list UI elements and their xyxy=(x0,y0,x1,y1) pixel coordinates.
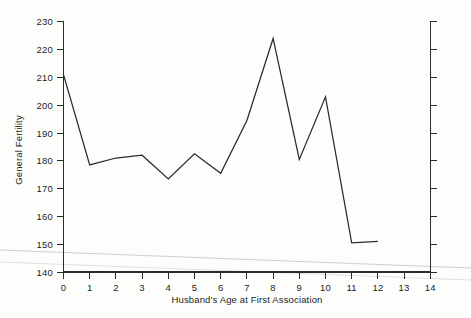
x-tick-label-14: 14 xyxy=(425,282,436,293)
y-tick-label-220: 220 xyxy=(37,44,53,55)
y-tick-label-190: 190 xyxy=(37,128,53,139)
x-tick-label-8: 8 xyxy=(270,282,275,293)
chart-container: General Fertility 140 150 160 170 180 19… xyxy=(0,0,471,318)
artifact-line-lower xyxy=(0,262,471,280)
x-tick-label-12: 12 xyxy=(372,282,383,293)
x-axis-ticks: 0 1 2 3 4 5 6 7 8 9 10 11 12 xyxy=(61,272,436,293)
x-axis-title: Husband's Age at First Association xyxy=(171,294,322,305)
x-tick-label-10: 10 xyxy=(320,282,331,293)
right-axis xyxy=(430,22,437,272)
x-tick-label-3: 3 xyxy=(139,282,144,293)
x-tick-label-7: 7 xyxy=(244,282,249,293)
y-tick-label-140: 140 xyxy=(37,267,53,278)
x-tick-label-5: 5 xyxy=(192,282,197,293)
y-axis-title: General Fertility xyxy=(13,115,24,185)
x-tick-label-13: 13 xyxy=(399,282,410,293)
x-tick-label-9: 9 xyxy=(297,282,302,293)
y-tick-label-170: 170 xyxy=(37,183,53,194)
y-tick-label-200: 200 xyxy=(37,100,53,111)
y-tick-label-150: 150 xyxy=(37,239,53,250)
y-tick-label-210: 210 xyxy=(37,72,53,83)
y-tick-label-180: 180 xyxy=(37,155,53,166)
x-tick-label-0: 0 xyxy=(61,282,66,293)
y-axis-ticks: 140 150 160 170 180 190 200 210 220 230 xyxy=(37,16,64,277)
x-tick-label-2: 2 xyxy=(113,282,118,293)
y-tick-label-230: 230 xyxy=(37,16,53,27)
x-tick-label-4: 4 xyxy=(166,282,171,293)
x-tick-label-6: 6 xyxy=(218,282,223,293)
x-tick-label-1: 1 xyxy=(87,282,92,293)
general-fertility-line xyxy=(64,38,378,242)
y-tick-label-160: 160 xyxy=(37,211,53,222)
scan-artifact-lines xyxy=(0,250,471,280)
fertility-line-chart: General Fertility 140 150 160 170 180 19… xyxy=(0,0,471,318)
artifact-line-upper xyxy=(0,250,471,268)
x-tick-label-11: 11 xyxy=(347,282,357,293)
